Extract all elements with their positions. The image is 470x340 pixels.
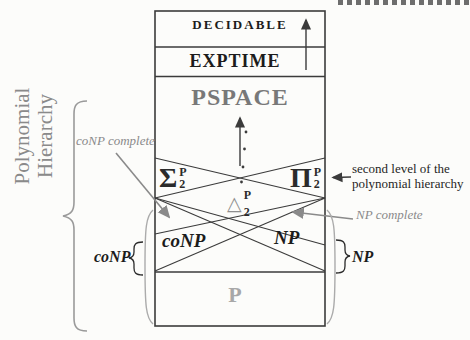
right-level-bracket (327, 210, 335, 324)
ellipsis-dot (242, 166, 245, 169)
second-level-arrow (333, 177, 351, 178)
np-complete-arrow (293, 212, 353, 219)
delta2p-label: △ P 2 (227, 189, 251, 218)
sigma-symbol: Σ (159, 165, 177, 191)
ellipsis-dot (240, 181, 243, 184)
sigma-subscript: 2 (179, 178, 186, 190)
ellipsis-dot (245, 131, 248, 134)
p-label: P (150, 282, 320, 308)
cropped-text-fragment (338, 0, 470, 5)
np-complete-annotation: NP complete (356, 207, 423, 223)
conp-region-label: coNP (162, 230, 205, 252)
second-level-line1: second level of the (352, 161, 470, 176)
delta-superscript: P (244, 189, 251, 201)
conp-complete-annotation: coNP complete (76, 133, 155, 149)
delta-scripts: P 2 (244, 189, 251, 218)
delta-triangle-icon: △ (227, 194, 242, 213)
np-region-label: NP (274, 227, 299, 249)
delta-subscript: 2 (244, 206, 251, 218)
np-side-label: NP (352, 248, 373, 266)
sigma2p-label: Σ P 2 (159, 165, 187, 191)
polynomial-hierarchy-label: Polynomial Hierarchy (11, 84, 59, 188)
pi2p-label: Π P 2 (290, 165, 321, 191)
second-level-line2: polynomial hierarchy (352, 176, 470, 191)
exptime-label: EXPTIME (150, 51, 320, 72)
decidable-label: DECIDABLE (155, 17, 325, 33)
pi-symbol: Π (290, 165, 312, 191)
polynomial-hierarchy-line1: Polynomial (11, 84, 34, 188)
np-side-brace (336, 240, 350, 273)
second-level-annotation: second level of the polynomial hierarchy (352, 161, 470, 191)
sigma-scripts: P 2 (179, 166, 186, 190)
conp-side-label: coNP (94, 248, 130, 266)
polynomial-hierarchy-diagram: DECIDABLE EXPTIME PSPACE P Σ P 2 Π P 2 △… (0, 0, 470, 340)
pi-subscript: 2 (314, 178, 321, 190)
pspace-label: PSPACE (155, 84, 325, 111)
ellipsis-dot (243, 148, 246, 151)
conp-side-brace (129, 242, 143, 275)
pi-scripts: P 2 (314, 166, 321, 190)
polynomial-hierarchy-line2: Hierarchy (34, 84, 57, 188)
